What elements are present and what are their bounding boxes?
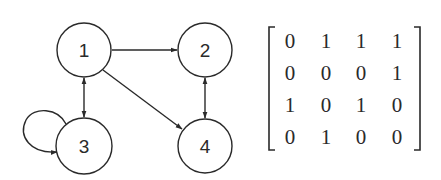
matrix-left-bracket xyxy=(269,27,275,150)
matrix-cell-r4c4: 0 xyxy=(392,125,403,149)
node-2-label: 2 xyxy=(200,40,211,61)
matrix-cell-r4c2: 1 xyxy=(321,125,332,149)
edge-1-to-4 xyxy=(103,70,182,129)
matrix-cell-r1c2: 1 xyxy=(321,29,332,53)
matrix-cell-r3c1: 1 xyxy=(285,93,296,117)
matrix-cell-r4c1: 0 xyxy=(285,125,296,149)
matrix-cell-r1c3: 1 xyxy=(356,29,367,53)
matrix-cell-r4c3: 0 xyxy=(356,125,367,149)
graph-diagram: 1 2 3 4 0 1 1 1 0 0 0 1 1 0 1 0 0 1 0 0 xyxy=(0,0,441,180)
node-3-label: 3 xyxy=(79,136,90,157)
edges xyxy=(24,50,205,152)
node-4-label: 4 xyxy=(200,136,211,157)
matrix-right-bracket xyxy=(414,27,420,150)
node-1-label: 1 xyxy=(79,40,90,61)
matrix-cell-r1c1: 0 xyxy=(285,29,296,53)
matrix-cell-r3c3: 1 xyxy=(356,93,367,117)
adjacency-matrix: 0 1 1 1 0 0 0 1 1 0 1 0 0 1 0 0 xyxy=(269,27,420,150)
matrix-cell-r2c4: 1 xyxy=(392,61,403,85)
matrix-cell-r2c3: 0 xyxy=(356,61,367,85)
matrix-cell-r3c4: 0 xyxy=(392,93,403,117)
matrix-cell-r2c1: 0 xyxy=(285,61,296,85)
matrix-cell-r2c2: 0 xyxy=(321,61,332,85)
matrix-cell-r3c2: 0 xyxy=(321,93,332,117)
matrix-cell-r1c4: 1 xyxy=(392,29,403,53)
